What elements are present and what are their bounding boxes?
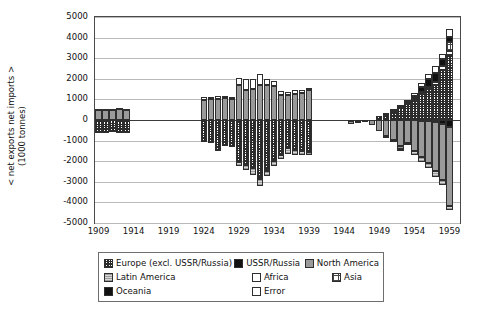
bar-column xyxy=(116,17,122,223)
bar-segment-error xyxy=(208,97,214,100)
bar-segment-europe xyxy=(278,120,284,155)
bar-segment-europe xyxy=(208,120,214,143)
bar-column xyxy=(208,17,214,223)
bar-segment-north-america xyxy=(95,110,101,120)
bar-segment-europe xyxy=(271,120,277,160)
bar-segment-europe xyxy=(299,120,305,151)
bar-column xyxy=(264,17,270,223)
bar-segment-error xyxy=(411,93,417,96)
legend-swatch-north-america-icon xyxy=(305,259,314,268)
legend-label: Europe (excl. USSR/Russia) xyxy=(116,258,232,268)
legend-swatch-latin-america-icon xyxy=(104,273,113,282)
bar-segment-europe xyxy=(418,94,424,120)
legend-item-error[interactable]: Error xyxy=(252,286,332,296)
bar-segment-error xyxy=(109,109,115,111)
bar-segment-error xyxy=(397,149,403,151)
chart-legend: Europe (excl. USSR/Russia)USSR/RussiaNor… xyxy=(98,252,384,302)
bar-segment-latin-america xyxy=(390,140,396,142)
bar-segment-error xyxy=(404,100,410,102)
x-axis-tick-label: 1919 xyxy=(149,226,189,236)
bar-segment-latin-america xyxy=(439,180,445,185)
bar-segment-error xyxy=(418,83,424,87)
bar-column xyxy=(404,17,410,223)
bar-column xyxy=(390,17,396,223)
y-axis-tick-label: -2000 xyxy=(42,156,88,165)
bar-segment-europe xyxy=(306,120,312,152)
legend-item-oceania[interactable]: Oceania xyxy=(104,286,252,296)
bar-segment-north-america xyxy=(116,109,122,120)
bar-segment-north-america xyxy=(418,121,424,157)
bar-column xyxy=(285,17,291,223)
bar-segment-north-america xyxy=(257,85,263,120)
bar-segment-north-america xyxy=(299,93,305,120)
y-axis-tick-label: 5000 xyxy=(42,12,88,21)
bar-segment-error xyxy=(215,96,221,99)
bar-segment-error xyxy=(285,92,291,95)
bar-segment-europe xyxy=(109,120,115,132)
bar-segment-error xyxy=(257,74,263,85)
bar-segment-north-america xyxy=(432,122,438,170)
bar-segment-north-america xyxy=(390,120,396,140)
bar-segment-latin-america xyxy=(306,152,312,155)
bar-segment-error xyxy=(383,113,389,115)
bar-segment-africa xyxy=(404,102,410,104)
bar-segment-latin-america xyxy=(236,162,242,166)
bar-segment-europe xyxy=(411,100,417,120)
bar-segment-latin-america xyxy=(243,165,249,170)
bar-column xyxy=(222,17,228,223)
bar-column xyxy=(383,17,389,223)
bar-column xyxy=(257,17,263,223)
y-axis-tick-label: 0 xyxy=(42,115,88,124)
y-axis-tick-label: -1000 xyxy=(42,136,88,145)
bar-segment-oceania xyxy=(432,73,438,82)
bar-column xyxy=(397,17,403,223)
bar-segment-europe xyxy=(229,120,235,147)
bar-column xyxy=(369,17,375,223)
bar-segment-europe xyxy=(404,104,410,120)
bar-segment-north-america xyxy=(355,121,361,123)
legend-row: Europe (excl. USSR/Russia)USSR/RussiaNor… xyxy=(104,256,379,270)
bar-column xyxy=(95,17,101,223)
bar-segment-error xyxy=(236,78,242,85)
y-axis-tick-label: -3000 xyxy=(42,177,88,186)
bar-segment-error xyxy=(271,81,277,86)
legend-label: North America xyxy=(317,258,379,268)
bar-segment-europe xyxy=(292,120,298,150)
bar-segment-europe xyxy=(285,120,291,148)
bar-segment-africa xyxy=(446,51,452,55)
bar-segment-error xyxy=(306,88,312,90)
bar-segment-europe xyxy=(257,120,263,177)
bar-segment-europe xyxy=(102,120,108,133)
bar-column xyxy=(355,17,361,223)
bar-segment-error xyxy=(278,91,284,95)
bar-segment-north-america xyxy=(411,120,417,151)
legend-item-europe[interactable]: Europe (excl. USSR/Russia) xyxy=(104,258,234,268)
bar-segment-latin-america xyxy=(292,150,298,155)
bar-segment-north-america xyxy=(236,85,242,120)
bar-column xyxy=(201,17,207,223)
bar-segment-error xyxy=(439,54,445,58)
bar-segment-latin-america xyxy=(250,168,256,174)
bar-segment-europe xyxy=(95,120,101,133)
legend-item-asia[interactable]: Asia xyxy=(332,272,362,282)
bar-column xyxy=(123,17,129,223)
y-axis-tick-label: 3000 xyxy=(42,53,88,62)
x-axis-tick-label: 1949 xyxy=(359,226,399,236)
bar-segment-error xyxy=(264,79,270,85)
x-axis-tick-label: 1944 xyxy=(324,226,364,236)
bar-segment-north-america xyxy=(446,127,452,206)
bar-segment-europe xyxy=(215,120,221,151)
bar-segment-error xyxy=(250,79,256,89)
bar-segment-latin-america xyxy=(432,171,438,177)
bar-segment-oceania xyxy=(439,59,445,66)
legend-item-africa[interactable]: Africa xyxy=(252,272,332,282)
bar-segment-latin-america xyxy=(425,163,431,167)
legend-item-north-america[interactable]: North America xyxy=(305,258,379,268)
bar-segment-africa xyxy=(418,92,424,94)
legend-item-latin-america[interactable]: Latin America xyxy=(104,272,252,282)
bar-segment-latin-america xyxy=(278,155,284,159)
bar-segment-error xyxy=(123,109,129,111)
x-axis-tick-label: 1924 xyxy=(184,226,224,236)
legend-item-ussr[interactable]: USSR/Russia xyxy=(234,258,304,268)
bar-segment-europe xyxy=(201,120,207,142)
